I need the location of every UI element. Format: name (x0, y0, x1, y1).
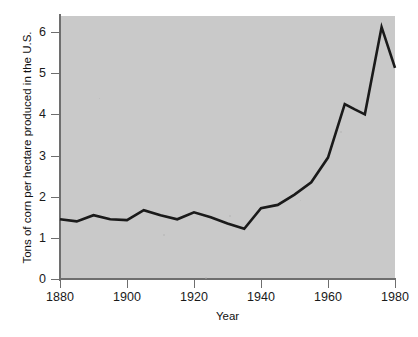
y-tick-1 (51, 238, 60, 239)
y-axis-spine (59, 14, 61, 281)
x-tick-label-1940: 1940 (234, 291, 288, 304)
x-axis-spine (59, 278, 396, 280)
x-tick-1940 (261, 279, 262, 288)
paper-speck (340, 131, 342, 133)
paper-speck (300, 200, 301, 201)
y-tick-6 (51, 32, 60, 33)
x-axis-title: Year (60, 311, 395, 323)
x-tick-label-1900: 1900 (100, 291, 154, 304)
x-tick-label-1960: 1960 (301, 291, 355, 304)
plot-area (60, 16, 395, 279)
x-tick-1880 (60, 279, 61, 288)
x-tick-1960 (328, 279, 329, 288)
chart-figure: 0123456 188019001920194019601980 Tons of… (0, 0, 418, 337)
y-tick-5 (51, 73, 60, 74)
paper-speck (229, 215, 231, 217)
x-tick-label-1880: 1880 (33, 291, 87, 304)
x-tick-label-1980: 1980 (368, 291, 418, 304)
paper-speck (99, 98, 100, 99)
paper-speck (163, 234, 165, 236)
y-tick-0 (51, 279, 60, 280)
y-tick-2 (51, 197, 60, 198)
x-tick-1920 (194, 279, 195, 288)
x-tick-1900 (127, 279, 128, 288)
paper-speck (205, 277, 207, 279)
y-tick-4 (51, 114, 60, 115)
y-axis-title: Tons of corn per hectare produced in the… (18, 16, 36, 279)
x-tick-label-1920: 1920 (167, 291, 221, 304)
x-tick-1980 (395, 279, 396, 288)
y-tick-3 (51, 156, 60, 157)
